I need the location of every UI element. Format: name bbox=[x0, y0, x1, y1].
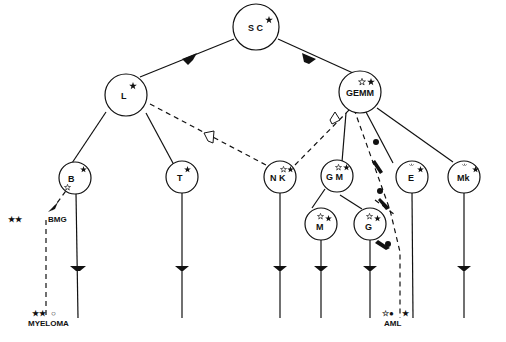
node-gemm: GEMM bbox=[339, 71, 381, 113]
node-nk: N K bbox=[264, 161, 296, 193]
label-myeloma: ★★ ○ MYELOMA bbox=[28, 309, 69, 328]
aml-prefix-marks: ☆● bbox=[382, 309, 394, 318]
label-aml: ☆● ★ AML bbox=[382, 309, 410, 328]
node-l-label: L bbox=[121, 91, 127, 101]
aml-label: AML bbox=[384, 319, 401, 328]
label-bmg: ★★ BMG bbox=[8, 215, 67, 224]
node-m-label: M bbox=[316, 222, 324, 232]
node-g: G bbox=[354, 208, 386, 240]
node-gm: G M bbox=[321, 160, 353, 192]
node-t-label: T bbox=[177, 173, 183, 183]
node-l: L bbox=[105, 74, 147, 116]
node-sc-label: S C bbox=[248, 23, 264, 33]
node-b-label: B bbox=[68, 174, 75, 184]
aml-suffix-mark: ★ bbox=[402, 309, 410, 318]
node-t: T bbox=[166, 161, 198, 193]
node-g-label: G bbox=[365, 222, 372, 232]
node-e: E bbox=[396, 161, 428, 193]
dashed-pathways bbox=[46, 104, 400, 318]
node-gm-label: G M bbox=[326, 172, 343, 182]
aml-pathway-dots bbox=[48, 139, 391, 250]
node-b: B bbox=[59, 162, 91, 194]
bmg-prefix-marks: ★★ bbox=[8, 215, 23, 224]
bmg-label: BMG bbox=[48, 215, 67, 224]
node-sc: S C bbox=[233, 4, 279, 50]
lineage-diagram: S C L GEMM B T N K G M E bbox=[0, 0, 506, 342]
node-e-label: E bbox=[408, 173, 414, 183]
node-mk-label: Mk bbox=[457, 173, 470, 183]
myeloma-prefix-marks: ★★ bbox=[32, 309, 47, 318]
myeloma-label: MYELOMA bbox=[28, 319, 69, 328]
node-gemm-label: GEMM bbox=[346, 88, 374, 98]
node-mk: Mk bbox=[448, 161, 480, 193]
node-nk-label: N K bbox=[270, 173, 286, 183]
myeloma-suffix-mark: ○ bbox=[51, 309, 56, 318]
node-m: M bbox=[305, 208, 337, 240]
open-arrow-markers bbox=[204, 112, 340, 143]
